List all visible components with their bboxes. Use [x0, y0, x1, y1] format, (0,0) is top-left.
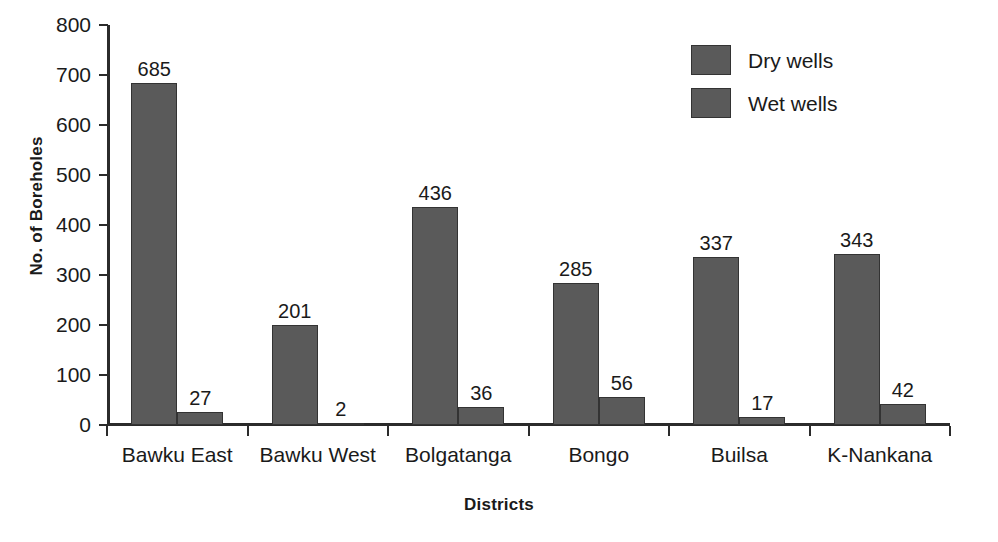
bar-group: 2012: [248, 25, 389, 425]
x-tick: [949, 426, 951, 436]
category-label: Builsa: [669, 443, 810, 467]
category-label: Bawku West: [248, 443, 389, 467]
x-tick: [387, 426, 389, 436]
y-tick-label-0: 0: [19, 414, 91, 435]
bar-group: 43636: [388, 25, 529, 425]
bar-wet-wells[interactable]: [880, 404, 926, 425]
x-tick: [809, 426, 811, 436]
y-tick-label-200: 200: [19, 314, 91, 335]
x-axis-title: Districts: [0, 495, 998, 515]
bar-value-label: 285: [541, 259, 611, 279]
bar-wet-wells[interactable]: [739, 417, 785, 426]
bar-value-label: 42: [868, 380, 938, 400]
legend-label: Dry wells: [748, 50, 833, 71]
bar-chart: No. of Boreholes 01002003004005006007008…: [0, 0, 998, 542]
bar-wet-wells[interactable]: [458, 407, 504, 425]
category-label: Bongo: [529, 443, 670, 467]
bar-value-label: 436: [400, 183, 470, 203]
bar-value-label: 17: [727, 393, 797, 413]
legend-item[interactable]: Dry wells: [691, 45, 837, 75]
category-label: Bolgatanga: [388, 443, 529, 467]
category-label: Bawku East: [107, 443, 248, 467]
bar-group: 28556: [529, 25, 670, 425]
y-tick-label-500: 500: [19, 164, 91, 185]
bar-group: 68527: [107, 25, 248, 425]
bar-value-label: 685: [119, 59, 189, 79]
legend: Dry wellsWet wells: [691, 45, 837, 131]
x-tick: [528, 426, 530, 436]
y-tick-label-100: 100: [19, 364, 91, 385]
x-tick: [247, 426, 249, 436]
legend-swatch-icon: [691, 45, 731, 75]
bar-value-label: 337: [681, 233, 751, 253]
bar-wet-wells[interactable]: [177, 412, 223, 426]
legend-item[interactable]: Wet wells: [691, 88, 837, 118]
bar-value-label: 201: [260, 301, 330, 321]
x-tick: [668, 426, 670, 436]
bar-wet-wells[interactable]: [599, 397, 645, 425]
bar-dry-wells[interactable]: [131, 83, 177, 426]
bar-value-label: 343: [822, 230, 892, 250]
y-tick-label-400: 400: [19, 214, 91, 235]
bar-value-label: 2: [306, 399, 376, 419]
legend-label: Wet wells: [748, 93, 837, 114]
bar-wet-wells[interactable]: [318, 423, 364, 425]
x-tick: [106, 426, 108, 436]
y-tick-label-600: 600: [19, 114, 91, 135]
y-tick-label-300: 300: [19, 264, 91, 285]
bar-value-label: 36: [446, 383, 516, 403]
bar-value-label: 56: [587, 373, 657, 393]
bar-dry-wells[interactable]: [553, 283, 599, 426]
category-label: K-Nankana: [810, 443, 951, 467]
legend-swatch-icon: [691, 88, 731, 118]
y-tick-label-800: 800: [19, 14, 91, 35]
bar-value-label: 27: [165, 388, 235, 408]
y-tick-label-700: 700: [19, 64, 91, 85]
